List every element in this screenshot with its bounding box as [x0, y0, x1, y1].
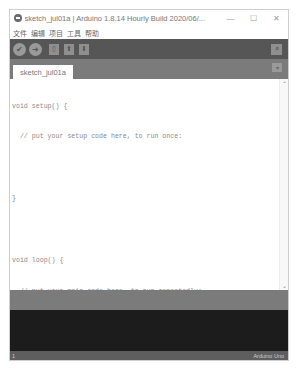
console-output[interactable]: [10, 310, 288, 351]
minimize-button[interactable]: —: [219, 14, 242, 23]
arrow-right-icon: ➜: [32, 45, 39, 54]
code-line: }: [12, 194, 202, 204]
new-file-icon: ▯: [52, 45, 56, 53]
window-title: sketch_jul01a | Arduino 1.8.14 Hourly Bu…: [25, 14, 219, 23]
scroll-down-icon[interactable]: ⌄: [280, 282, 289, 289]
vertical-scrollbar[interactable]: ⌃ ⌄: [279, 79, 288, 290]
close-button[interactable]: ✕: [265, 14, 288, 23]
arrow-down-icon: ⬇: [81, 45, 87, 53]
serial-monitor-button[interactable]: ⌕: [271, 44, 282, 55]
magnifier-icon: ⌕: [275, 44, 279, 54]
code-line: // put your setup code here, to run once…: [12, 132, 202, 142]
save-button[interactable]: ⬇: [79, 44, 89, 55]
code-line: void setup() {: [12, 102, 202, 112]
tab-menu-button[interactable]: ▾: [272, 63, 282, 72]
tab-bar: sketch_jul01a ▾: [10, 59, 288, 79]
menu-edit[interactable]: 编辑: [31, 28, 45, 38]
maximize-button[interactable]: ☐: [242, 14, 265, 23]
tab-label: sketch_jul01a: [20, 68, 66, 77]
board-name: Arduino Uno: [253, 353, 284, 359]
line-number: 1: [12, 353, 15, 359]
arduino-ide-window: sketch_jul01a | Arduino 1.8.14 Hourly Bu…: [9, 9, 289, 361]
menu-bar: 文件 编辑 项目 工具 帮助: [10, 26, 288, 39]
menu-help[interactable]: 帮助: [85, 28, 99, 38]
checkmark-icon: ✔: [16, 45, 23, 54]
scroll-up-icon[interactable]: ⌃: [280, 80, 289, 87]
code-editor[interactable]: void setup() { // put your setup code he…: [10, 79, 288, 290]
upload-button[interactable]: ➜: [29, 43, 42, 56]
menu-sketch[interactable]: 项目: [49, 28, 63, 38]
new-button[interactable]: ▯: [49, 44, 59, 55]
open-button[interactable]: ⬆: [64, 44, 74, 55]
status-bar: [10, 290, 288, 310]
chevron-down-icon: ▾: [276, 64, 279, 71]
tab-sketch[interactable]: sketch_jul01a: [13, 65, 73, 79]
code-line: [12, 225, 202, 235]
toolbar: ✔ ➜ ▯ ⬆ ⬇ ⌕: [10, 39, 288, 59]
menu-file[interactable]: 文件: [13, 28, 27, 38]
arrow-up-icon: ⬆: [66, 45, 72, 53]
verify-button[interactable]: ✔: [13, 43, 26, 56]
title-bar: sketch_jul01a | Arduino 1.8.14 Hourly Bu…: [10, 10, 288, 26]
window-controls: — ☐ ✕: [219, 14, 288, 23]
arduino-logo-icon: [14, 14, 22, 22]
menu-tools[interactable]: 工具: [67, 28, 81, 38]
code-line: [12, 163, 202, 173]
code-line: void loop() {: [12, 256, 202, 266]
bottom-status-bar: 1 Arduino Uno: [10, 351, 288, 360]
